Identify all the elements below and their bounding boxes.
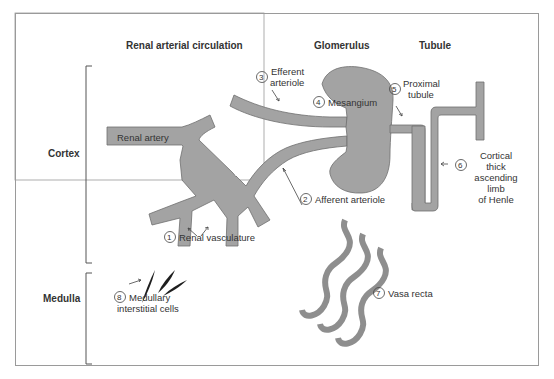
label-efferent: Efferent <box>271 66 304 77</box>
label-renal-artery: Renal artery <box>117 132 169 143</box>
label-interstitial-cells: interstitial cells <box>117 303 179 314</box>
num-2: 2 <box>303 194 307 205</box>
num-3: 3 <box>259 72 263 83</box>
label-renal-vasculature: Renal vasculature <box>179 232 255 243</box>
glomerulus <box>322 67 393 194</box>
label-medullary: Medullary <box>129 292 170 303</box>
num-6: 6 <box>458 160 462 171</box>
label-afferent-arteriole: Afferent arteriole <box>315 194 385 205</box>
header-renal-arterial-circulation: Renal arterial circulation <box>126 40 243 51</box>
label-tubule: tubule <box>408 89 434 100</box>
num-5: 5 <box>392 84 396 95</box>
header-glomerulus: Glomerulus <box>314 40 370 51</box>
label-cortical: Cortical <box>468 150 524 161</box>
label-of-henle: of Henle <box>468 194 524 205</box>
num-7: 7 <box>376 288 380 299</box>
label-arteriole: arteriole <box>270 77 304 88</box>
label-limb: limb <box>468 183 524 194</box>
region-medulla: Medulla <box>43 293 80 304</box>
header-tubule: Tubule <box>419 40 451 51</box>
region-cortex: Cortex <box>48 148 80 159</box>
label-proximal: Proximal <box>403 78 440 89</box>
medulla-bracket <box>86 273 92 364</box>
num-4: 4 <box>316 97 320 108</box>
label-vasa-recta: Vasa recta <box>388 288 433 299</box>
label-thick: thick <box>468 161 524 172</box>
num-8: 8 <box>117 292 121 303</box>
label-mesangium: Mesangium <box>328 97 377 108</box>
num-1: 1 <box>167 232 171 243</box>
vasa-recta <box>302 220 386 344</box>
label-ascending: ascending <box>468 172 524 183</box>
cortex-bracket <box>86 66 92 263</box>
